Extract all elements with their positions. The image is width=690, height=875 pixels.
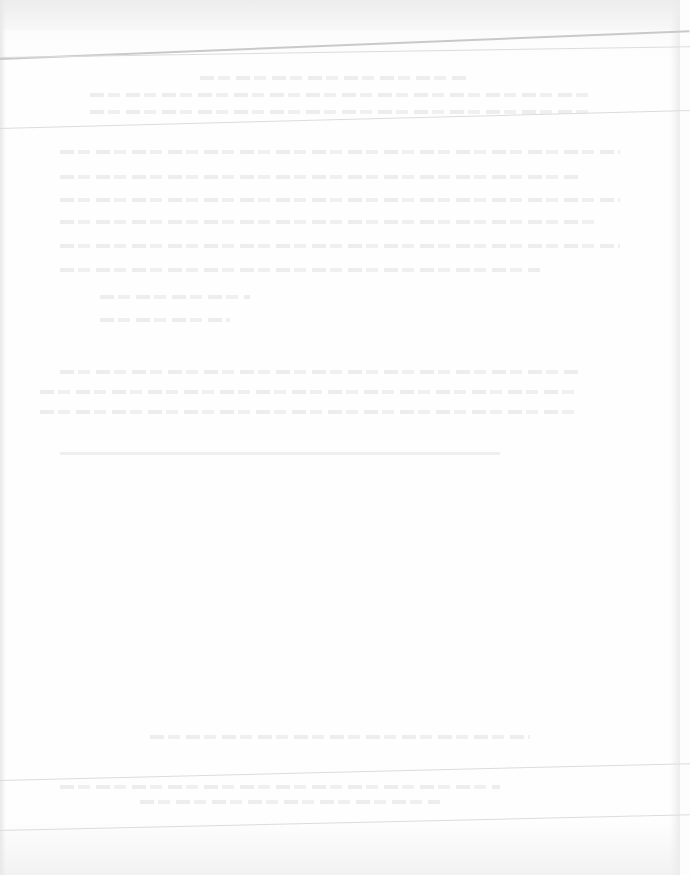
body-line [60,268,540,272]
header-rule-second [0,46,690,58]
scan-top-shadow [0,0,680,30]
body-line [40,410,580,414]
scan-right-edge [670,0,680,875]
body-line [100,318,230,322]
body-line [100,295,250,299]
footer-text-line [140,800,440,804]
scan-left-edge [0,0,6,875]
footer-text-line [150,735,530,739]
body-line [40,390,580,394]
body-line [60,150,620,154]
body-line [60,370,580,374]
footer-rule-2 [0,814,690,831]
section-divider [60,452,500,455]
footer-rule-1 [0,763,690,781]
header-text-line-1 [200,76,470,80]
body-line [60,175,580,179]
body-line [60,198,620,202]
body-line [60,220,600,224]
footer-text-line [60,785,500,789]
header-text-line-3 [90,110,590,114]
body-line [60,244,620,248]
header-text-line-2 [90,93,590,97]
